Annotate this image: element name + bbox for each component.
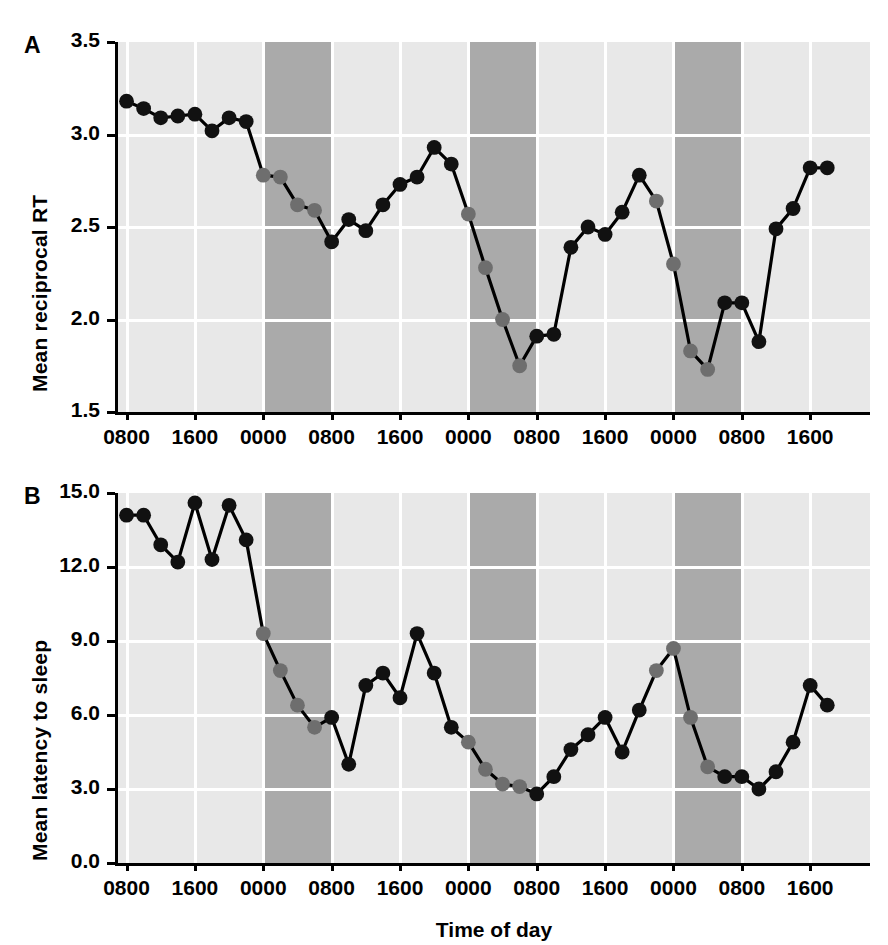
data-point-sleep (700, 759, 715, 774)
x-tick-mark (467, 412, 470, 420)
data-point-sleep (290, 197, 305, 212)
x-tick-mark (126, 863, 129, 871)
data-point-sleep (512, 358, 527, 373)
data-point-wake (529, 787, 544, 802)
data-point-wake (769, 764, 784, 779)
data-point-wake (239, 532, 254, 547)
x-tick-mark (809, 412, 812, 420)
data-point-sleep (649, 663, 664, 678)
data-point-wake (324, 710, 339, 725)
y-tick-mark (107, 566, 115, 569)
y-tick-label: 15.0 (30, 479, 100, 503)
data-point-sleep (256, 168, 271, 183)
data-point-wake (546, 769, 561, 784)
y-tick-mark (107, 640, 115, 643)
data-point-sleep (700, 362, 715, 377)
data-point-sleep (461, 207, 476, 222)
data-point-wake (803, 160, 818, 175)
data-point-wake (376, 197, 391, 212)
data-point-wake (803, 678, 818, 693)
data-point-wake (598, 710, 613, 725)
y-tick-label: 3.5 (30, 28, 100, 52)
data-point-sleep (273, 663, 288, 678)
y-tick-mark (107, 492, 115, 495)
y-axis-line (115, 493, 118, 863)
x-tick-mark (536, 412, 539, 420)
y-tick-mark (107, 411, 115, 414)
data-point-wake (341, 757, 356, 772)
data-point-wake (188, 495, 203, 510)
data-point-sleep (512, 779, 527, 794)
x-axis-title: Time of day (118, 918, 870, 942)
data-point-wake (752, 334, 767, 349)
x-tick-mark (536, 863, 539, 871)
data-point-sleep (290, 698, 305, 713)
x-tick-mark (467, 863, 470, 871)
data-point-wake (170, 555, 185, 570)
y-tick-label: 1.5 (30, 398, 100, 422)
y-axis-line (115, 42, 118, 412)
x-tick-mark (399, 412, 402, 420)
series-line (127, 503, 828, 794)
data-point-sleep (649, 194, 664, 209)
x-tick-mark (262, 412, 265, 420)
data-point-sleep (273, 170, 288, 185)
data-point-wake (615, 745, 630, 760)
data-point-wake (376, 666, 391, 681)
data-point-wake (717, 769, 732, 784)
data-point-wake (444, 720, 459, 735)
data-point-sleep (495, 777, 510, 792)
data-point-sleep (666, 257, 681, 272)
x-tick-mark (331, 412, 334, 420)
x-tick-mark (126, 412, 129, 420)
y-tick-label: 2.0 (30, 306, 100, 330)
data-point-sleep (683, 344, 698, 359)
x-tick-label: 1600 (770, 425, 850, 449)
data-point-wake (752, 782, 767, 797)
data-point-wake (136, 101, 151, 116)
y-tick-mark (107, 134, 115, 137)
y-tick-mark (107, 226, 115, 229)
data-point-wake (632, 703, 647, 718)
x-tick-mark (672, 412, 675, 420)
data-point-wake (615, 205, 630, 220)
data-point-wake (222, 498, 237, 513)
data-point-wake (734, 769, 749, 784)
data-point-wake (358, 223, 373, 238)
data-point-wake (820, 698, 835, 713)
data-point-wake (222, 110, 237, 125)
data-point-wake (427, 666, 442, 681)
y-tick-mark (107, 714, 115, 717)
x-tick-mark (604, 863, 607, 871)
x-tick-label: 1600 (770, 876, 850, 900)
y-tick-mark (107, 862, 115, 865)
data-point-wake (546, 327, 561, 342)
y-tick-label: 12.0 (30, 553, 100, 577)
y-tick-mark (107, 41, 115, 44)
x-tick-mark (399, 863, 402, 871)
x-tick-mark (194, 863, 197, 871)
data-point-wake (324, 234, 339, 249)
data-point-sleep (461, 735, 476, 750)
data-point-wake (188, 107, 203, 122)
data-point-sleep (256, 626, 271, 641)
data-point-wake (444, 157, 459, 172)
data-point-wake (632, 168, 647, 183)
data-point-wake (205, 123, 220, 138)
data-point-wake (153, 537, 168, 552)
series-line (127, 101, 828, 369)
panel-b-plot-frame: 15.012.09.06.03.00.008001600000008001600… (118, 493, 870, 863)
x-tick-mark (672, 863, 675, 871)
data-series-a (118, 42, 870, 412)
y-tick-mark (107, 319, 115, 322)
data-point-wake (153, 110, 168, 125)
data-point-wake (769, 221, 784, 236)
x-axis-line (115, 863, 870, 866)
data-series-b (118, 493, 870, 863)
panel-b-y-axis-title: Mean latency to sleep (28, 640, 52, 861)
figure-container: A Mean reciprocal RT 3.53.02.52.01.50800… (0, 0, 888, 945)
x-tick-mark (604, 412, 607, 420)
data-point-sleep (495, 312, 510, 327)
data-point-wake (119, 94, 134, 109)
data-point-sleep (683, 710, 698, 725)
